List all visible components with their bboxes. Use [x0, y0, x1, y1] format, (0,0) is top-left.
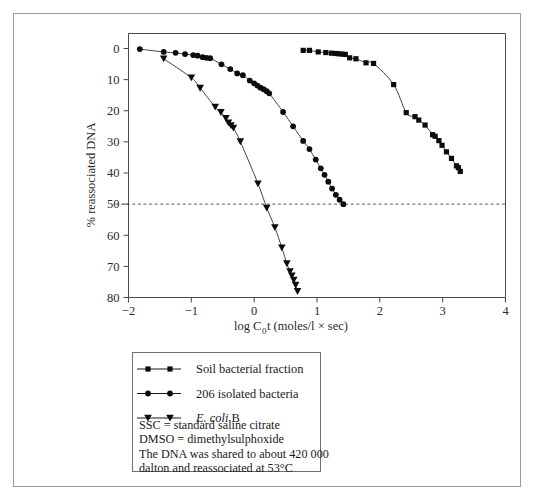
legend-entries: Soil bacterial fraction206 isolated bact… [137, 362, 303, 425]
y-axis-ticks: 01020304050607080 [107, 42, 129, 305]
data-point-s1-28 [329, 186, 335, 192]
y-tick-label-50: 50 [107, 197, 120, 211]
data-point-s1-21 [290, 123, 296, 129]
x-tick-label-5: 3 [440, 304, 446, 318]
data-point-s2-19 [294, 288, 302, 295]
data-point-s1-9 [219, 61, 225, 67]
legend-marker-1-a [145, 391, 151, 397]
data-point-s0-12 [371, 61, 376, 66]
data-point-s0-1 [307, 48, 312, 53]
chart-canvas: 01020304050607080 −2−101234 % reassociat… [0, 0, 536, 503]
x-tick-label-1: −1 [185, 304, 198, 318]
data-point-s1-10 [227, 66, 233, 72]
y-tick-label-20: 20 [107, 104, 120, 118]
data-point-s1-31 [340, 201, 346, 207]
data-point-s1-0 [137, 46, 143, 52]
data-markers [137, 46, 463, 295]
legend-marker-0-b [167, 366, 172, 371]
data-point-s1-1 [161, 49, 167, 55]
data-point-s1-29 [333, 192, 339, 198]
legend-marker-0-a [145, 366, 150, 371]
x-axis-title-suffix: t (moles/l × sec) [267, 319, 348, 333]
data-point-s0-17 [422, 122, 427, 127]
data-point-s0-9 [347, 55, 352, 60]
data-point-s1-2 [173, 50, 179, 56]
data-point-s2-9 [237, 138, 245, 145]
legend-notes: SSC = standard saline citrateDMSO = dime… [139, 418, 329, 475]
data-point-s0-2 [316, 49, 321, 54]
curve-series-2 [164, 59, 298, 291]
y-tick-label-10: 10 [107, 73, 120, 87]
y-axis-title: % reassociated DNA [84, 123, 98, 228]
x-axis-title: log C 0 t (moles/l × sec) [234, 319, 348, 336]
data-curves [140, 49, 460, 291]
data-point-s1-19 [266, 90, 272, 96]
curve-series-0 [303, 50, 460, 171]
legend-label-1: 206 isolated bacteria [196, 387, 299, 401]
legend-note-0: SSC = standard saline citrate [139, 418, 280, 432]
data-point-s0-22 [444, 149, 449, 154]
data-point-s2-11 [263, 205, 271, 212]
x-tick-label-4: 2 [377, 304, 383, 318]
data-point-s2-0 [160, 56, 168, 63]
x-tick-label-0: −2 [122, 304, 135, 318]
data-point-s1-5 [195, 53, 201, 59]
x-axis-title-prefix: log C [234, 319, 261, 333]
x-axis-ticks: −2−101234 [122, 298, 510, 318]
data-point-s2-13 [278, 245, 286, 252]
legend-marker-1-b [167, 391, 173, 397]
data-point-s1-26 [322, 172, 328, 178]
y-tick-label-40: 40 [107, 166, 120, 180]
data-point-s0-21 [439, 143, 444, 148]
data-point-s1-11 [234, 71, 240, 77]
data-point-s1-23 [307, 146, 313, 152]
legend-note-2: The DNA was shared to about 420 000 [139, 447, 329, 461]
data-point-s1-22 [300, 138, 306, 144]
y-tick-label-30: 30 [107, 135, 120, 149]
data-point-s2-14 [283, 260, 291, 267]
data-point-s0-26 [458, 169, 463, 174]
y-tick-label-70: 70 [107, 260, 120, 274]
data-point-s0-11 [363, 60, 368, 65]
data-point-s1-24 [313, 157, 319, 163]
data-point-s1-25 [318, 165, 324, 171]
data-point-s0-23 [449, 156, 454, 161]
y-tick-label-80: 80 [107, 291, 120, 305]
x-tick-label-2: 0 [251, 304, 257, 318]
figure-root: 01020304050607080 −2−101234 % reassociat… [0, 0, 536, 503]
data-point-s2-10 [254, 180, 262, 187]
data-point-s2-18 [292, 282, 300, 289]
data-point-s1-8 [207, 55, 213, 61]
data-point-s0-20 [436, 138, 441, 143]
legend-label-0: Soil bacterial fraction [196, 362, 303, 376]
y-tick-label-60: 60 [107, 229, 120, 243]
data-point-s1-30 [337, 197, 343, 203]
data-point-s0-10 [353, 56, 358, 61]
data-point-s0-13 [391, 82, 396, 87]
x-tick-label-6: 4 [502, 304, 509, 318]
data-point-s0-16 [416, 117, 421, 122]
y-tick-label-0: 0 [113, 42, 119, 56]
data-point-s1-27 [325, 179, 331, 185]
data-point-s0-0 [301, 48, 306, 53]
data-point-s1-12 [240, 72, 246, 78]
data-point-s0-14 [404, 110, 409, 115]
data-point-s0-3 [323, 50, 328, 55]
legend-note-3: dalton and reassociated at 53°C [139, 461, 293, 475]
x-tick-label-3: 1 [314, 304, 320, 318]
data-point-s1-3 [182, 51, 188, 57]
curve-series-1 [140, 49, 344, 204]
data-point-s2-12 [271, 224, 279, 231]
data-point-s1-20 [280, 109, 286, 115]
legend-note-1: DMSO = dimethylsulphoxide [139, 432, 284, 446]
